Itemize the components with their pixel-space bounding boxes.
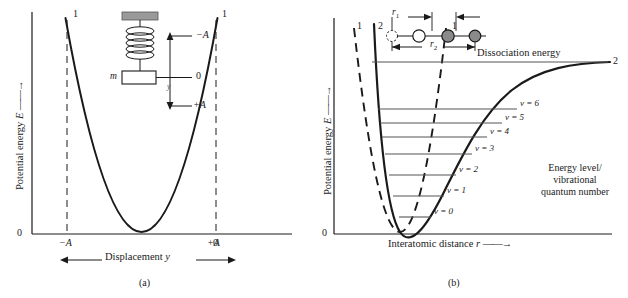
level-label-v3: v = 3	[475, 143, 494, 153]
panel-a-y-axis-label: Potential energy E ——→	[14, 81, 25, 190]
panel-a-x-axis-label: Displacement y	[105, 251, 170, 262]
ceiling-support-icon	[122, 12, 158, 20]
r1-dimension-label: r1	[392, 7, 399, 20]
spring-icon	[126, 27, 154, 59]
panel-b-x-axis-label-text: Interatomic distance	[388, 238, 473, 249]
panel-a-curve-label-left: 1	[73, 8, 78, 19]
panel-a-y-axis-label-text: Potential energy	[14, 122, 25, 190]
panel-b-y-axis-label-symbol: E	[322, 118, 333, 124]
panel-b-x-axis-arrow: ——→	[483, 238, 512, 249]
panel-b-x-axis-label-symbol: r	[476, 238, 480, 249]
atom-dashed-outline-icon	[387, 31, 398, 42]
panel-b-label-harmonic-left: 1	[357, 20, 362, 31]
energy-level-annotation: Energy level/ vibrational quantum number	[527, 162, 623, 198]
figure-potential-energy-curves: Potential energy E ——→ 0 −A 0 +A 1 1 Dis…	[0, 0, 628, 298]
panel-a-xtick-plus-A: +A	[207, 237, 220, 248]
panel-a-curve-label-right: 1	[222, 8, 227, 19]
level-label-v4: v = 4	[490, 126, 509, 136]
panel-a-y-axis-label-symbol: E	[14, 113, 25, 119]
mass-block-icon	[122, 71, 156, 84]
panel-a-xtick-minus-A: −A	[59, 237, 72, 248]
level-label-v6: v = 6	[520, 98, 539, 108]
annotation-line-2: vibrational	[527, 174, 623, 186]
atom-filled-icon-2	[469, 30, 481, 42]
mass-label: m	[110, 71, 117, 81]
level-label-v1: v = 1	[447, 185, 466, 195]
atom-open-icon	[413, 30, 425, 42]
level-label-v0: v = 0	[434, 206, 453, 216]
panel-b-x-axis-label: Interatomic distance r ——→	[388, 238, 511, 249]
panel-b-y-axis-label: Potential energy E ——→	[322, 86, 333, 195]
panel-b-harmonic-dashed-curve	[354, 28, 446, 232]
inset-mark-plus-A: +A	[193, 99, 206, 110]
panel-a-caption: (a)	[139, 277, 150, 288]
level-label-v2: v = 2	[459, 164, 478, 174]
atom-filled-icon-1	[442, 30, 454, 42]
panel-a-y-axis-arrow: ——→	[14, 81, 25, 110]
panel-a-x-axis-label-symbol: y	[165, 251, 170, 262]
panel-b-label-morse-right: 2	[613, 55, 618, 66]
inset-displacement-symbol: y	[167, 82, 171, 91]
panel-b-origin-label: 0	[322, 227, 327, 238]
annotation-line-1: Energy level/	[527, 162, 623, 174]
panel-b-caption: (b)	[448, 277, 460, 288]
panel-b-y-axis-label-text: Potential energy	[322, 127, 333, 195]
r2-subscript: 2	[434, 44, 438, 52]
annotation-line-3: quantum number	[527, 186, 623, 198]
inset-mark-minus-A: −A	[196, 29, 209, 40]
inset-mark-zero: 0	[196, 70, 201, 81]
panel-a-x-axis-label-text: Displacement	[105, 251, 163, 262]
r2-dimension-label: r2	[430, 39, 437, 52]
panel-b-y-axis-arrow: ——→	[322, 86, 333, 115]
panel-a-origin-label: 0	[17, 227, 22, 238]
level-label-v5: v = 5	[505, 112, 524, 122]
r1-subscript: 1	[396, 12, 400, 20]
